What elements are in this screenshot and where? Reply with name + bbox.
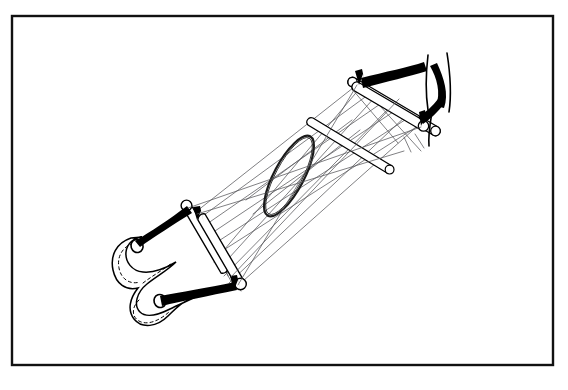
- illustration-canvas: Technical line drawing of a string-and-r…: [0, 0, 568, 390]
- line-art-drawing: [0, 0, 568, 390]
